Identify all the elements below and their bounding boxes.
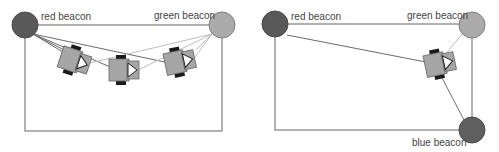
red-beacon-label: red beacon	[291, 11, 341, 22]
blue-beacon-label: blue beacon	[412, 137, 467, 148]
green-beacon-label: green beacon	[154, 10, 215, 21]
blue-beacon-line	[440, 74, 464, 120]
green-beacon-label: green beacon	[407, 10, 468, 21]
robot	[56, 42, 94, 80]
red-beacon-line	[287, 35, 436, 64]
three-beacon-diagram: red beacon green beacon blue beacon	[250, 0, 499, 152]
robot	[109, 55, 139, 85]
robot	[422, 46, 458, 82]
red-beacon	[262, 11, 288, 37]
red-beacon	[12, 12, 38, 38]
two-beacon-diagram: red beacon green beacon	[0, 0, 250, 152]
panel-two-beacons: red beacon green beacon	[0, 0, 250, 152]
panel-three-beacons: red beacon green beacon blue beacon	[250, 0, 499, 152]
red-beacon-lines	[33, 34, 174, 72]
red-beacon-label: red beacon	[41, 11, 91, 22]
green-beacon-line	[445, 34, 462, 55]
